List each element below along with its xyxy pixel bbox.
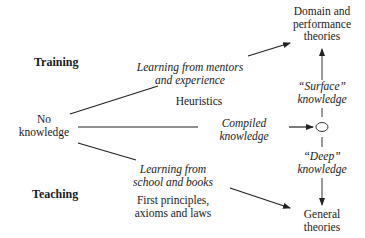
learning-from-mentors-label: Learning from mentors and experience <box>133 61 247 86</box>
surface-knowledge-label: “Surface” knowledge <box>292 80 352 105</box>
upper-path-arrow <box>248 43 290 56</box>
principles-line2: axioms and laws <box>132 207 214 220</box>
deep-line2: knowledge <box>292 163 352 176</box>
principles-line1: First principles, <box>132 194 214 207</box>
mentors-line2: and experience <box>133 74 247 87</box>
lower-path-line <box>78 143 136 160</box>
no-knowledge-line1: No <box>16 113 72 126</box>
school-line1: Learning from <box>132 163 214 176</box>
upper-path-line <box>70 86 158 114</box>
mentors-line1: Learning from mentors <box>133 61 247 74</box>
compiled-line1: Compiled <box>214 117 274 130</box>
no-knowledge-node: No knowledge <box>16 113 72 138</box>
training-label: Training <box>34 56 78 69</box>
deep-knowledge-label: “Deep” knowledge <box>292 150 352 175</box>
compiled-knowledge-label: Compiled knowledge <box>214 117 274 142</box>
heuristics-label: Heuristics <box>170 95 228 108</box>
general-theories-node: General theories <box>294 208 350 233</box>
general-line1: General <box>294 208 350 221</box>
lower-path-arrow <box>230 188 290 208</box>
circle-node <box>316 123 328 132</box>
surface-line2: knowledge <box>292 93 352 106</box>
deep-line1: “Deep” <box>292 150 352 163</box>
domain-line1: Domain and <box>288 5 356 18</box>
domain-theories-node: Domain and performance theories <box>288 5 356 43</box>
school-line2: school and books <box>132 176 214 189</box>
domain-line2: performance <box>288 18 356 31</box>
no-knowledge-line2: knowledge <box>16 126 72 139</box>
learning-from-school-label: Learning from school and books <box>132 163 214 188</box>
teaching-label: Teaching <box>32 188 78 201</box>
surface-line1: “Surface” <box>292 80 352 93</box>
general-line2: theories <box>294 221 350 234</box>
compiled-line2: knowledge <box>214 130 274 143</box>
first-principles-label: First principles, axioms and laws <box>132 194 214 219</box>
domain-line3: theories <box>288 30 356 43</box>
